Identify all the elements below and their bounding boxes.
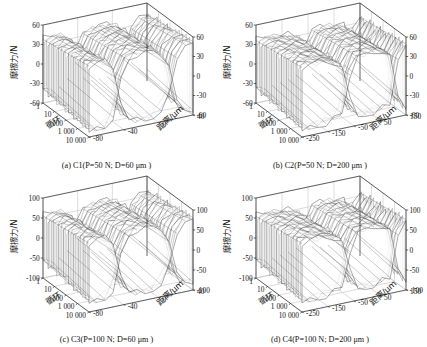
panel-d: -100-50050100-100-500501001101001 00010 … — [213, 173, 427, 347]
svg-text:1: 1 — [249, 102, 253, 111]
z-axis-label: 摩擦力/N — [9, 45, 19, 78]
svg-text:0: 0 — [196, 246, 200, 255]
panel-c-caption: (c) C3(P=100 N; D=60 μm ) — [0, 335, 213, 344]
svg-text:50: 50 — [245, 214, 253, 223]
svg-text:150: 150 — [410, 112, 421, 121]
z-axis-label: 摩擦力/N — [222, 45, 232, 78]
svg-text:1: 1 — [36, 102, 40, 111]
svg-text:1: 1 — [36, 277, 40, 286]
svg-text:-30: -30 — [196, 91, 206, 100]
svg-text:0: 0 — [409, 246, 413, 255]
panel-a-caption: (a) C1(P=50 N; D=60 μm ) — [0, 161, 213, 170]
z-axis-label: 摩擦力/N — [9, 219, 19, 252]
svg-text:30: 30 — [245, 40, 253, 49]
svg-text:0: 0 — [36, 234, 40, 243]
panel-c: -100-50050100-100-500501001101001 00010 … — [0, 173, 213, 347]
svg-text:50: 50 — [196, 226, 204, 235]
svg-text:-250: -250 — [306, 134, 320, 143]
svg-text:-50: -50 — [409, 266, 419, 275]
panel-b: -60-3003060-60-30030601101001 00010 000-… — [213, 0, 427, 173]
z-axis-label: 摩擦力/N — [222, 219, 232, 252]
svg-text:0: 0 — [196, 72, 200, 81]
panel-b-caption: (b) C2(P=50 N; D=200 μm ) — [213, 161, 427, 170]
svg-text:50: 50 — [32, 214, 40, 223]
svg-text:40: 40 — [197, 287, 205, 296]
svg-text:-150: -150 — [332, 304, 346, 313]
svg-text:-150: -150 — [332, 129, 346, 138]
svg-text:60: 60 — [409, 33, 417, 42]
svg-text:30: 30 — [196, 52, 204, 61]
svg-text:10 000: 10 000 — [279, 136, 300, 145]
svg-text:-80: -80 — [93, 309, 103, 318]
svg-text:50: 50 — [409, 226, 417, 235]
svg-text:30: 30 — [32, 40, 40, 49]
svg-text:60: 60 — [32, 21, 40, 30]
svg-text:-30: -30 — [409, 91, 419, 100]
svg-text:-250: -250 — [306, 309, 320, 318]
svg-text:-50: -50 — [30, 254, 40, 263]
svg-text:60: 60 — [196, 33, 204, 42]
plot-a-svg: -60-3003060-60-30030601101001 00010 000-… — [0, 0, 213, 173]
svg-text:-50: -50 — [196, 266, 206, 275]
svg-text:150: 150 — [410, 287, 421, 296]
svg-text:100: 100 — [409, 206, 420, 215]
svg-text:-40: -40 — [128, 302, 138, 311]
panel-d-caption: (d) C4(P=100 N; D=200 μm ) — [213, 335, 427, 344]
svg-text:0: 0 — [409, 72, 413, 81]
svg-text:30: 30 — [409, 52, 417, 61]
svg-text:10 000: 10 000 — [66, 136, 87, 145]
svg-text:100: 100 — [196, 206, 207, 215]
panel-a: -60-3003060-60-30030601101001 00010 000-… — [0, 0, 213, 173]
plot-b-svg: -60-3003060-60-30030601101001 00010 000-… — [213, 0, 427, 173]
svg-text:100: 100 — [29, 194, 40, 203]
svg-text:10: 10 — [257, 285, 265, 294]
svg-text:-40: -40 — [128, 127, 138, 136]
svg-text:40: 40 — [197, 112, 205, 121]
svg-text:-50: -50 — [243, 254, 253, 263]
svg-text:60: 60 — [245, 21, 253, 30]
svg-text:-30: -30 — [30, 79, 40, 88]
svg-text:10 000: 10 000 — [66, 311, 87, 320]
svg-text:100: 100 — [242, 194, 253, 203]
svg-text:0: 0 — [249, 60, 253, 69]
svg-text:-80: -80 — [93, 134, 103, 143]
plot-d-svg: -100-50050100-100-500501001101001 00010 … — [213, 173, 427, 347]
plot-c-svg: -100-50050100-100-500501001101001 00010 … — [0, 173, 213, 347]
figure-four-panel-3d-friction-plots: -60-3003060-60-30030601101001 00010 000-… — [0, 0, 427, 347]
svg-text:10 000: 10 000 — [279, 311, 300, 320]
svg-text:10: 10 — [44, 285, 52, 294]
svg-text:0: 0 — [36, 60, 40, 69]
svg-text:1: 1 — [249, 277, 253, 286]
svg-text:-30: -30 — [243, 79, 253, 88]
svg-text:0: 0 — [249, 234, 253, 243]
